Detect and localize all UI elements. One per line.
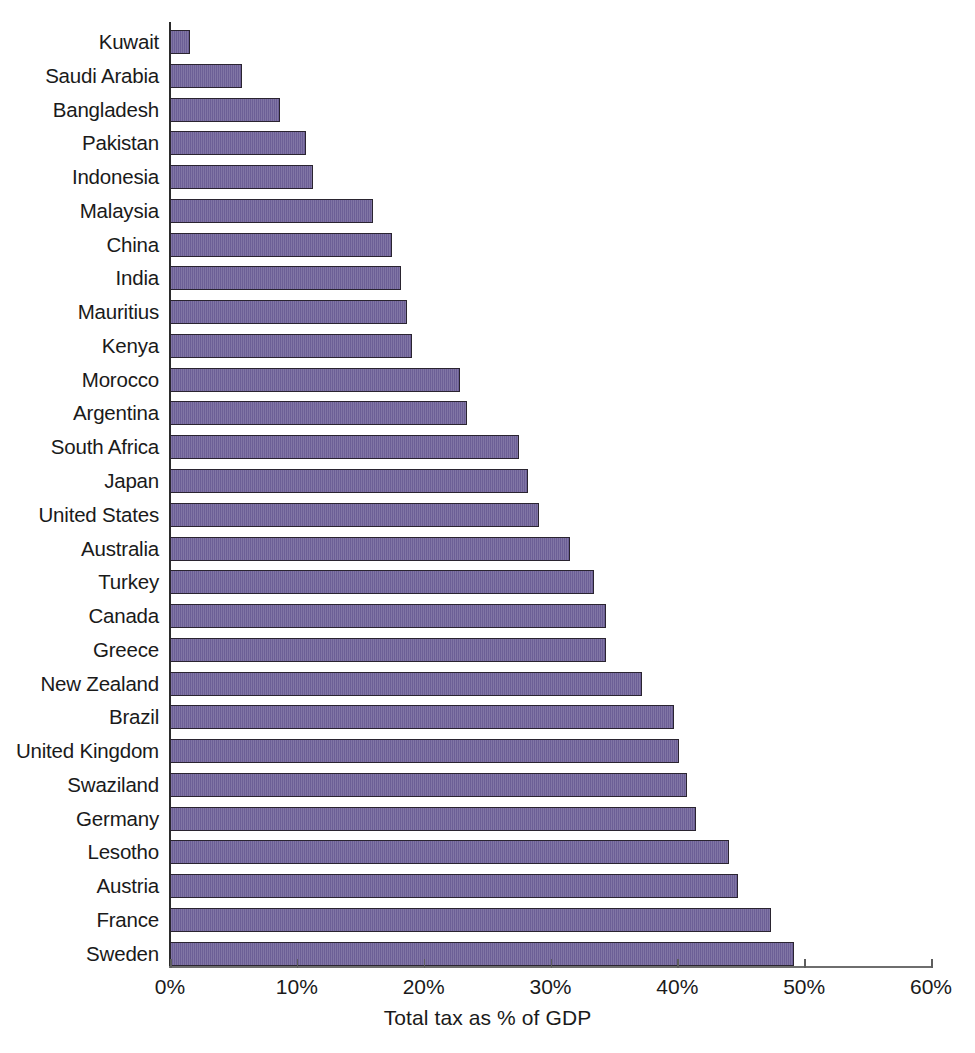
category-label: Argentina xyxy=(0,396,159,430)
bar-row: Lesotho xyxy=(0,835,975,869)
x-axis-tick xyxy=(424,959,426,968)
category-label: Lesotho xyxy=(0,835,159,869)
bar-row: Saudi Arabia xyxy=(0,59,975,93)
bar-row: Sweden xyxy=(0,937,975,971)
bar xyxy=(170,435,519,459)
category-label: Bangladesh xyxy=(0,93,159,127)
bar-row: Kuwait xyxy=(0,25,975,59)
bar xyxy=(170,840,729,864)
bar-row: Australia xyxy=(0,532,975,566)
bar xyxy=(170,199,373,223)
bar xyxy=(170,469,528,493)
x-axis-tick xyxy=(297,959,299,968)
bar xyxy=(170,165,313,189)
bar xyxy=(170,98,280,122)
bar xyxy=(170,503,539,527)
category-label: United States xyxy=(0,498,159,532)
bar xyxy=(170,131,306,155)
category-label: Japan xyxy=(0,464,159,498)
category-label: Turkey xyxy=(0,565,159,599)
bar-row: India xyxy=(0,261,975,295)
category-label: South Africa xyxy=(0,430,159,464)
bar xyxy=(170,368,460,392)
bar-row: Swaziland xyxy=(0,768,975,802)
bar xyxy=(170,401,467,425)
category-label: France xyxy=(0,903,159,937)
bar-row: Greece xyxy=(0,633,975,667)
bar xyxy=(170,773,687,797)
category-label: Pakistan xyxy=(0,126,159,160)
bar xyxy=(170,300,407,324)
bar-row: Indonesia xyxy=(0,160,975,194)
bar xyxy=(170,604,606,628)
bar xyxy=(170,30,190,54)
bar xyxy=(170,64,242,88)
bar-row: Brazil xyxy=(0,700,975,734)
bar xyxy=(170,705,674,729)
category-label: Mauritius xyxy=(0,295,159,329)
plot-area: KuwaitSaudi ArabiaBangladeshPakistanIndo… xyxy=(0,0,975,975)
bar-row: Germany xyxy=(0,802,975,836)
bar-row: Pakistan xyxy=(0,126,975,160)
bar xyxy=(170,942,794,966)
x-axis-tick-label: 60% xyxy=(871,975,975,999)
bar xyxy=(170,638,606,662)
category-label: China xyxy=(0,228,159,262)
bar xyxy=(170,570,594,594)
bar-row: China xyxy=(0,228,975,262)
category-label: Brazil xyxy=(0,700,159,734)
x-axis-tick xyxy=(804,959,806,968)
category-label: Austria xyxy=(0,869,159,903)
bar-row: Canada xyxy=(0,599,975,633)
bar-row: Morocco xyxy=(0,363,975,397)
bar-row: Kenya xyxy=(0,329,975,363)
bar xyxy=(170,672,642,696)
bar xyxy=(170,537,570,561)
x-axis-tick xyxy=(170,959,172,968)
x-axis-title: Total tax as % of GDP xyxy=(0,1006,975,1030)
bar-row: France xyxy=(0,903,975,937)
category-label: Saudi Arabia xyxy=(0,59,159,93)
x-axis-tick xyxy=(677,959,679,968)
category-label: Australia xyxy=(0,532,159,566)
x-axis-tick xyxy=(551,959,553,968)
bar-row: Mauritius xyxy=(0,295,975,329)
bar-row: Japan xyxy=(0,464,975,498)
x-axis-tick xyxy=(931,959,933,968)
bar xyxy=(170,233,392,257)
category-label: Kenya xyxy=(0,329,159,363)
category-label: India xyxy=(0,261,159,295)
category-label: Greece xyxy=(0,633,159,667)
category-label: Malaysia xyxy=(0,194,159,228)
category-label: Canada xyxy=(0,599,159,633)
category-label: Morocco xyxy=(0,363,159,397)
bar-row: United States xyxy=(0,498,975,532)
bar xyxy=(170,874,738,898)
x-axis-tick-label: 10% xyxy=(237,975,357,999)
bar-row: Argentina xyxy=(0,396,975,430)
category-label: Germany xyxy=(0,802,159,836)
bar-row: Bangladesh xyxy=(0,93,975,127)
x-axis-tick-label: 30% xyxy=(491,975,611,999)
bar xyxy=(170,908,771,932)
x-axis-tick-label: 40% xyxy=(617,975,737,999)
bar-row: United Kingdom xyxy=(0,734,975,768)
bar-row: New Zealand xyxy=(0,667,975,701)
bar-row: South Africa xyxy=(0,430,975,464)
category-label: Indonesia xyxy=(0,160,159,194)
bar xyxy=(170,334,412,358)
x-axis-tick-label: 50% xyxy=(744,975,864,999)
bar-chart: KuwaitSaudi ArabiaBangladeshPakistanIndo… xyxy=(0,0,975,1053)
bar xyxy=(170,266,401,290)
x-axis-tick-label: 0% xyxy=(110,975,230,999)
category-label: Sweden xyxy=(0,937,159,971)
bar xyxy=(170,807,696,831)
category-label: Swaziland xyxy=(0,768,159,802)
bar xyxy=(170,739,679,763)
x-axis-tick-label: 20% xyxy=(364,975,484,999)
category-label: New Zealand xyxy=(0,667,159,701)
bar-row: Malaysia xyxy=(0,194,975,228)
bar-row: Turkey xyxy=(0,565,975,599)
category-label: Kuwait xyxy=(0,25,159,59)
bar-row: Austria xyxy=(0,869,975,903)
